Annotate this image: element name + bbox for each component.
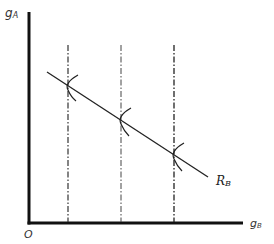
x-axis-label: gB [250, 217, 262, 230]
reaction-function-diagram: gA gB O RB [0, 0, 274, 244]
isoprofit-arc-3 [173, 143, 184, 171]
origin-label: O [24, 228, 33, 241]
reaction-line-rb [47, 72, 208, 177]
y-axis-label: gA [5, 6, 18, 20]
isoprofit-arc-2 [120, 108, 131, 136]
reaction-line-label: RB [215, 174, 231, 188]
